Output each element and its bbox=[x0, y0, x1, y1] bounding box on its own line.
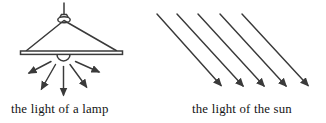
light-ray-arrow bbox=[177, 14, 243, 86]
lamp-shade-cone bbox=[26, 21, 117, 52]
light-ray-arrow bbox=[198, 14, 264, 86]
lamp-rays-icon bbox=[29, 62, 99, 96]
light-ray-arrow bbox=[29, 62, 51, 74]
light-ray-arrow bbox=[42, 65, 56, 90]
sun-rays-icon bbox=[157, 14, 308, 86]
sun-caption: the light of the sun bbox=[192, 102, 292, 117]
light-comparison-diagram: the light of a lamp the light of the sun bbox=[0, 0, 326, 123]
light-ray-arrow bbox=[157, 14, 221, 86]
lamp-shade-rim bbox=[21, 51, 123, 54]
lamp-bulb bbox=[57, 54, 70, 61]
light-ray-arrow bbox=[70, 65, 87, 88]
lamp-icon bbox=[21, 3, 123, 61]
light-ray-arrow bbox=[76, 62, 100, 73]
lamp-caption: the light of a lamp bbox=[11, 102, 109, 117]
